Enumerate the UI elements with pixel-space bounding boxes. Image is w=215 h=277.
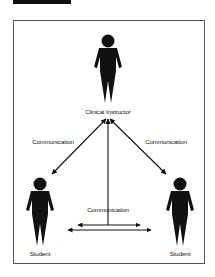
arrow-instructor-left-student (52, 119, 106, 174)
communication-right-label: Communication (145, 139, 187, 145)
right-student-person-icon (166, 178, 194, 247)
communication-center-label: Communication (87, 207, 129, 213)
left-student-label: Student (30, 251, 51, 257)
communication-left-label: Communication (32, 139, 74, 145)
arrow-instructor-right-student (110, 119, 166, 174)
instructor-label: Clinical Instructor (85, 109, 131, 115)
right-student-label: Student (170, 251, 191, 257)
instructor-person-icon (94, 35, 122, 104)
left-student-person-icon (26, 178, 54, 247)
